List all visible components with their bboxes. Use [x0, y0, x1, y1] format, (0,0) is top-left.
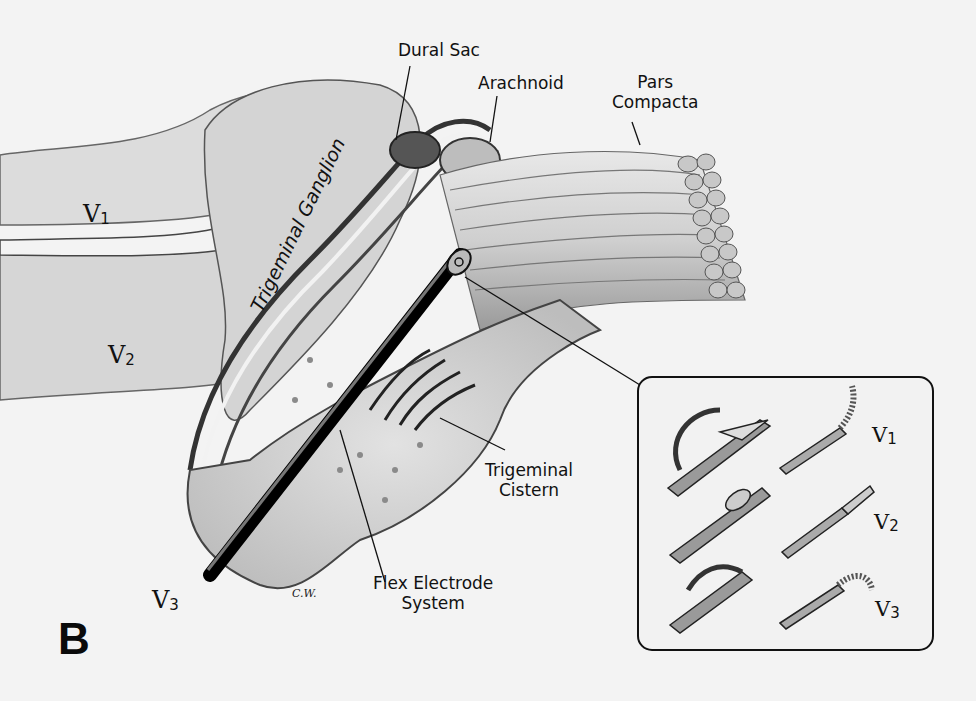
label-arachnoid: Arachnoid — [478, 73, 564, 93]
inset-label-v1: V1 — [872, 423, 897, 448]
medical-illustration: Dural Sac Arachnoid Pars Compacta Trigem… — [0, 0, 976, 701]
artist-signature: C.W. — [292, 587, 316, 600]
label-flex-electrode-system: Flex Electrode System — [373, 573, 493, 613]
trigeminal-ganglion-shape — [204, 80, 420, 420]
panel-label: B — [58, 614, 90, 664]
label-dural-sac: Dural Sac — [398, 40, 480, 60]
inset-label-v2: V2 — [874, 510, 899, 535]
label-pars-compacta: Pars Compacta — [612, 72, 698, 112]
dural-sac-opening — [390, 132, 440, 168]
label-v2: V2 — [108, 341, 135, 369]
inset-label-v3: V3 — [875, 597, 900, 622]
pars-compacta-bundle — [440, 152, 745, 330]
label-v1: V1 — [83, 200, 110, 228]
label-v3: V3 — [152, 586, 179, 614]
label-trigeminal-cistern: Trigeminal Cistern — [485, 460, 573, 500]
